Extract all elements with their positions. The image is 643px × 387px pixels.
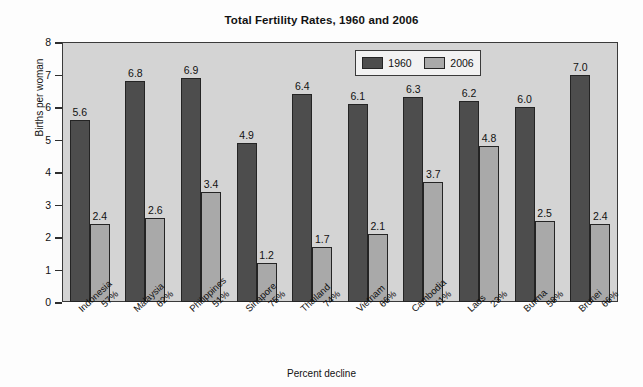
bar-value-label: 1.2 [259, 249, 274, 261]
y-axis-tick-mark [55, 270, 62, 272]
y-axis-tick-label: 0 [45, 294, 51, 310]
y-axis-tick-mark [55, 140, 62, 142]
bar: 4.9 [237, 143, 257, 302]
legend-swatch-1960-icon [362, 57, 383, 69]
bar: 6.3 [403, 97, 423, 302]
y-axis-tick-mark [55, 237, 62, 239]
y-axis-tick-mark [55, 172, 62, 174]
bar-group: 7.02.4 [570, 42, 610, 302]
y-axis-tick-mark [55, 205, 62, 207]
bar-value-label: 7.0 [573, 61, 588, 73]
bar: 5.6 [70, 120, 90, 302]
y-axis-tick: 4 [0, 172, 62, 173]
bar-group: 6.41.7 [292, 42, 332, 302]
bar-group: 6.12.1 [348, 42, 388, 302]
y-axis-tick-label: 5 [45, 132, 51, 148]
bar: 7.0 [570, 75, 590, 303]
y-axis-tick-label: 3 [45, 197, 51, 213]
bar-value-label: 1.7 [315, 233, 330, 245]
bar-value-label: 4.8 [482, 132, 497, 144]
y-axis-tick: 7 [0, 75, 62, 76]
bar-value-label: 5.6 [72, 106, 87, 118]
legend-entry-2006: 2006 [424, 57, 473, 69]
bar-value-label: 6.4 [295, 80, 310, 92]
y-axis-tick-label: 1 [45, 262, 51, 278]
legend-label-1960: 1960 [388, 57, 411, 69]
bar-value-label: 6.3 [406, 83, 421, 95]
y-axis-tick-mark [55, 75, 62, 77]
chart-legend: 1960 2006 [355, 50, 481, 76]
bar-group: 5.62.4 [70, 42, 110, 302]
x-axis-title: Percent decline [0, 368, 643, 379]
chart-figure: Total Fertility Rates, 1960 and 2006 Bir… [0, 0, 643, 387]
y-axis-tick: 1 [0, 270, 62, 271]
y-axis-tick-mark [55, 302, 62, 304]
bar-value-label: 2.6 [148, 204, 163, 216]
bar: 6.4 [292, 94, 312, 302]
bar-value-label: 2.4 [593, 210, 608, 222]
y-axis-tick: 3 [0, 205, 62, 206]
x-axis-ticks: Indonesia57%Malaysia62%Philippines51%Sin… [62, 302, 618, 368]
bar-value-label: 6.2 [462, 87, 477, 99]
y-axis-tick: 2 [0, 237, 62, 238]
bar-group: 6.93.4 [181, 42, 221, 302]
chart-title: Total Fertility Rates, 1960 and 2006 [0, 14, 643, 26]
bar: 4.8 [479, 146, 499, 302]
y-axis-tick: 8 [0, 42, 62, 43]
bar: 6.9 [181, 78, 201, 302]
y-axis-tick-mark [55, 42, 62, 44]
bar-group: 6.82.6 [125, 42, 165, 302]
bar-value-label: 6.0 [517, 93, 532, 105]
bar-value-label: 2.1 [370, 220, 385, 232]
bar-value-label: 6.8 [128, 67, 143, 79]
y-axis-tick-label: 2 [45, 229, 51, 245]
bar-group: 6.33.7 [403, 42, 443, 302]
y-axis-tick-label: 6 [45, 99, 51, 115]
y-axis-tick-label: 7 [45, 67, 51, 83]
y-axis-tick-mark [55, 107, 62, 109]
bar-group: 6.24.8 [459, 42, 499, 302]
bar-value-label: 6.1 [350, 90, 365, 102]
bar-value-label: 2.4 [92, 210, 107, 222]
bar: 6.1 [348, 104, 368, 302]
legend-label-2006: 2006 [450, 57, 473, 69]
y-axis-tick-label: 8 [45, 34, 51, 50]
bars-layer: 5.62.46.82.66.93.44.91.26.41.76.12.16.33… [62, 42, 618, 302]
bar: 6.0 [515, 107, 535, 302]
legend-swatch-2006-icon [424, 57, 445, 69]
y-axis-title: Births per woman [34, 28, 45, 168]
y-axis-tick: 5 [0, 140, 62, 141]
bar-value-label: 6.9 [184, 64, 199, 76]
y-axis-tick: 6 [0, 107, 62, 108]
bar-value-label: 2.5 [537, 207, 552, 219]
bar-value-label: 3.7 [426, 168, 441, 180]
bar: 6.2 [459, 101, 479, 303]
y-axis-tick-label: 4 [45, 164, 51, 180]
legend-entry-1960: 1960 [362, 57, 411, 69]
bar-group: 6.02.5 [515, 42, 555, 302]
bar-value-label: 3.4 [204, 178, 219, 190]
bar-value-label: 4.9 [239, 129, 254, 141]
bar-group: 4.91.2 [237, 42, 277, 302]
bar: 6.8 [125, 81, 145, 302]
y-axis-tick: 0 [0, 302, 62, 303]
